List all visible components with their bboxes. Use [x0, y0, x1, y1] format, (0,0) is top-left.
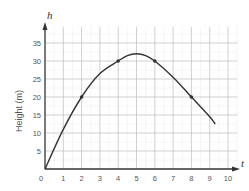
- data-point-marker: [153, 59, 157, 63]
- data-point-marker: [116, 59, 120, 63]
- x-tick-label: 6: [153, 174, 157, 183]
- data-point-marker: [190, 95, 194, 99]
- y-tick-label: 10: [33, 129, 41, 138]
- x-tick-label: 9: [208, 174, 212, 183]
- data-point-marker: [80, 95, 84, 99]
- x-tick-label: 4: [116, 174, 120, 183]
- x-tick-label: 5: [134, 174, 138, 183]
- x-tick-label: 2: [80, 174, 84, 183]
- y-tick-label: 30: [33, 57, 41, 66]
- x-tick-label: 1: [61, 174, 65, 183]
- x-axis-arrow-icon: [232, 167, 240, 172]
- y-tick-label: 15: [33, 111, 41, 120]
- height-time-chart: 0123456789105101520253035 h t Height (m): [0, 0, 249, 191]
- y-tick-label: 20: [33, 93, 41, 102]
- x-tick-label: 8: [189, 174, 193, 183]
- x-axis-variable-label: t: [241, 157, 245, 169]
- y-axis-arrow-icon: [43, 22, 48, 30]
- y-tick-label: 25: [33, 75, 41, 84]
- x-tick-label: 7: [171, 174, 175, 183]
- tick-labels: 0123456789105101520253035: [33, 39, 233, 183]
- x-tick-label: 3: [98, 174, 102, 183]
- y-tick-label: 35: [33, 39, 41, 48]
- height-curve: [45, 54, 215, 169]
- y-axis-label: Height (m): [14, 90, 24, 132]
- y-axis-variable-label: h: [47, 9, 53, 21]
- x-tick-label: 0: [39, 174, 43, 183]
- grid: [45, 27, 237, 169]
- x-tick-label: 10: [224, 174, 232, 183]
- y-tick-label: 5: [37, 147, 41, 156]
